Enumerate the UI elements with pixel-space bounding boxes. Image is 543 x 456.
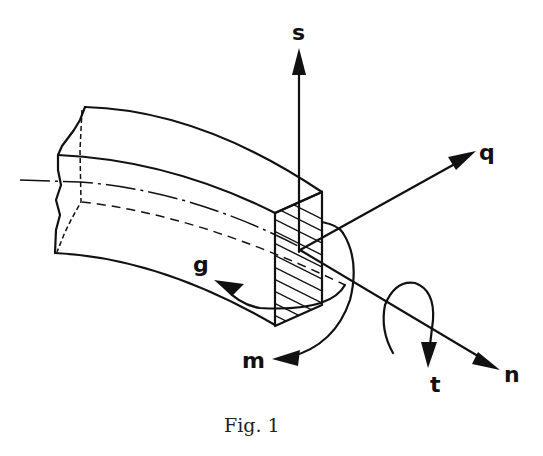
s-arrow-icon [292, 48, 306, 75]
label-q: q [479, 140, 495, 165]
figure-caption: Fig. 1 [224, 414, 280, 436]
label-s: s [292, 20, 305, 45]
beam-diagram: s q n g m t Fig. 1 [0, 0, 543, 456]
beam-centroid-axis [20, 180, 300, 247]
label-g: g [193, 252, 209, 277]
curved-beam [20, 107, 345, 325]
t-torsion: t [384, 283, 441, 397]
m-arrow-icon [272, 350, 300, 366]
q-axis: q [300, 140, 495, 250]
t-arrow-icon [421, 342, 437, 368]
m-moment: m [242, 222, 354, 373]
beam-upper-front-edge [58, 155, 275, 213]
label-m: m [242, 348, 265, 373]
label-n: n [504, 362, 520, 387]
label-t: t [430, 372, 441, 397]
q-arrow-icon [448, 151, 476, 170]
beam-bottom-edge [55, 253, 275, 325]
n-axis: n [300, 250, 520, 387]
beam-hidden-line [82, 202, 345, 285]
beam-top-edge [85, 107, 322, 192]
